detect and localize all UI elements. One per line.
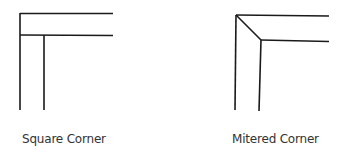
mitered-corner-label: Mitered Corner [232, 132, 319, 146]
square-corner-drawing [20, 13, 113, 110]
corners-diagram [0, 0, 344, 153]
mitered-corner-drawing [235, 15, 329, 111]
square-corner-label: Square Corner [22, 132, 106, 146]
